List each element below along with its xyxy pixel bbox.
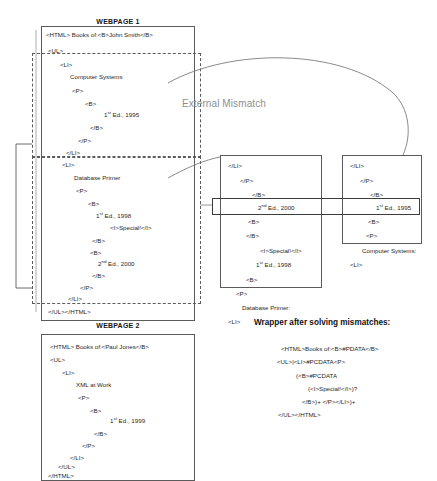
wrapper-code-line: </UL></HTML> (278, 411, 321, 418)
wrapper-code-line: <HTML>Books of:<B>#PDATA</B> (281, 345, 378, 352)
wrapper-code-line: </B>)+ </P></LI>)+ (302, 398, 355, 405)
wrapper-code-line: (<B>#PCDATA (296, 372, 337, 379)
wrapper-code-line: <UL>|<LI>#PCDATA<P> (277, 358, 345, 365)
wrapper-code-line: (<I>Special!</I>)? (308, 385, 357, 392)
